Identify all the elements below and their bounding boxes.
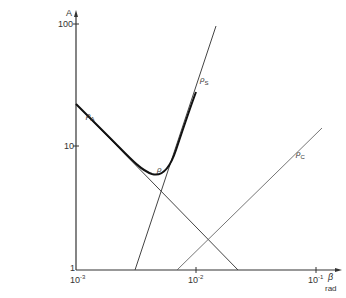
y-tick-label-10: 10 [64, 142, 74, 151]
x-tick-exp: -1 [318, 274, 323, 280]
label-rho-c: ρC [296, 150, 305, 160]
x-tick-label-m1: 10-1 [308, 274, 323, 285]
y-axis-arrow-icon [74, 10, 78, 17]
x-tick-exp: -3 [80, 274, 85, 280]
x-axis-label: β [328, 273, 333, 282]
x-tick-exp: -2 [198, 274, 203, 280]
chart-plot [0, 0, 346, 298]
x-tick-label-m2: 10-2 [188, 274, 203, 285]
x-tick-base: 10 [308, 275, 318, 285]
series-rho [76, 92, 196, 175]
series-rho-s [135, 26, 216, 270]
x-tick-label-m3: 10-3 [70, 274, 85, 285]
y-tick-label-1: 1 [70, 264, 75, 273]
x-axis-unit: rad [325, 285, 337, 293]
y-tick-label-100: 100 [58, 20, 73, 29]
x-axis-arrow-icon [335, 268, 342, 272]
label-rho-s: ρS [200, 76, 209, 86]
x-tick-base: 10 [188, 275, 198, 285]
x-tick-base: 10 [70, 275, 80, 285]
y-axis-label: A [66, 9, 72, 18]
label-rho-a: ρA [86, 112, 95, 122]
label-rho: ρ [157, 166, 162, 174]
